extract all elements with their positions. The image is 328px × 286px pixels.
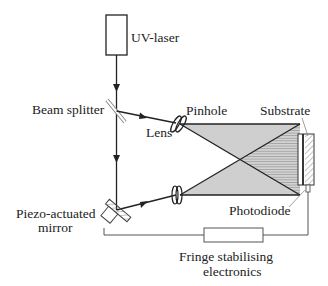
- substrate: [298, 134, 314, 185]
- photodiode-label: Photodiode: [229, 203, 291, 218]
- pinhole-label: Pinhole: [186, 103, 227, 118]
- piezo-label-line1: Piezo-actuated: [16, 206, 96, 221]
- piezo-label-line2: mirror: [38, 220, 73, 235]
- arrow-right-icon: [139, 113, 147, 120]
- arrow-down-icon: [113, 84, 120, 92]
- substrate-leader-line: [302, 118, 308, 136]
- lens-label: Lens: [146, 125, 172, 140]
- fringe-stabilising-electronics-box: [204, 228, 263, 242]
- photodiode: [306, 185, 310, 192]
- fringe-label-line2: electronics: [203, 264, 261, 279]
- uv-laser-box: [106, 15, 127, 55]
- feedback-wire-to-piezo: [104, 228, 204, 235]
- substrate-label: Substrate: [260, 103, 310, 118]
- arrow-right-icon: [140, 201, 148, 208]
- beam-splitter-label: Beam splitter: [32, 102, 105, 117]
- diagram: UV-laser Beam splitter Lens Pinhole Piez…: [0, 0, 328, 286]
- piezo-actuated-mirror: [98, 199, 131, 231]
- uv-laser-label: UV-laser: [131, 30, 180, 45]
- optical-setup-diagram: UV-laser Beam splitter Lens Pinhole Piez…: [0, 0, 328, 286]
- arrow-down-icon: [113, 155, 120, 163]
- fringe-label-line1: Fringe stabilising: [179, 249, 273, 264]
